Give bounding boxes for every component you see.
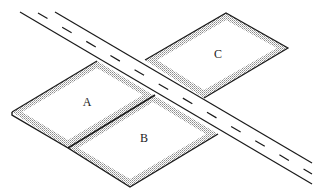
plot-label-b: B <box>140 132 148 144</box>
plot-label-c: C <box>214 48 222 60</box>
plot-label-a: A <box>83 96 92 108</box>
diagram-canvas: A B C <box>0 0 318 193</box>
